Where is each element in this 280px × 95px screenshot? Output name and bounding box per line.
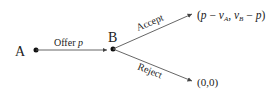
accept-payoff: (p − vA, vB − p) xyxy=(197,9,265,23)
node-a-label: A xyxy=(15,44,26,59)
game-tree-diagram: A Offer p B Accept Reject (p − vA, vB − … xyxy=(0,0,280,95)
offer-label: Offer p xyxy=(54,37,83,48)
accept-label: Accept xyxy=(134,12,165,33)
reject-label: Reject xyxy=(136,61,164,81)
node-b-label: B xyxy=(108,30,117,45)
reject-payoff: (0,0) xyxy=(197,76,218,89)
